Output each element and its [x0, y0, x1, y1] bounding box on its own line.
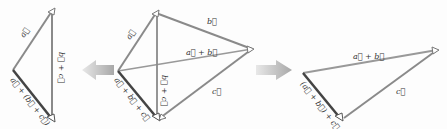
label-a: a⃗: [18, 26, 31, 39]
left-triangle: a⃗ b⃗ + c⃗ a⃗ + (b⃗ + c⃗): [8, 8, 66, 127]
label-b-plus-c: b⃗ + c⃗: [160, 75, 169, 106]
label-result: a⃗ + (b⃗ + c⃗): [8, 76, 51, 128]
vector-a: [118, 13, 156, 71]
arrow-left-icon: [82, 60, 114, 80]
vector-a-plus-b: [118, 49, 252, 71]
label-c: c⃗: [212, 87, 221, 96]
right-triangle: a⃗ + b⃗ c⃗ (a⃗ + b⃗) + c⃗: [298, 47, 439, 129]
vector-b: [156, 13, 252, 49]
label-b: b⃗: [207, 17, 217, 26]
label-c: c⃗: [396, 87, 405, 96]
label-a-plus-b: a⃗ + b⃗: [186, 48, 217, 57]
vector-c: [160, 49, 252, 118]
middle-quadrilateral: a⃗ b⃗ c⃗ a⃗ + b⃗ b⃗ + c⃗ a⃗ + b⃗ + c⃗: [112, 10, 254, 123]
label-a: a⃗: [124, 28, 137, 41]
vector-a: [13, 11, 52, 70]
arrow-right-icon: [256, 60, 292, 80]
label-b-plus-c: b⃗ + c⃗: [57, 52, 66, 83]
label-result: a⃗ + b⃗ + c⃗: [112, 76, 151, 123]
arrowhead-icon: [247, 46, 254, 53]
label-result: (a⃗ + b⃗) + c⃗: [298, 80, 341, 129]
label-a-plus-b: a⃗ + b⃗: [353, 52, 384, 61]
diagram-svg: a⃗ b⃗ + c⃗ a⃗ + (b⃗ + c⃗) a⃗ b⃗ c⃗ a⃗ + …: [0, 0, 447, 129]
vector-addition-associativity-diagram: a⃗ b⃗ + c⃗ a⃗ + (b⃗ + c⃗) a⃗ b⃗ c⃗ a⃗ + …: [0, 0, 447, 129]
arrowhead-icon: [432, 47, 439, 54]
